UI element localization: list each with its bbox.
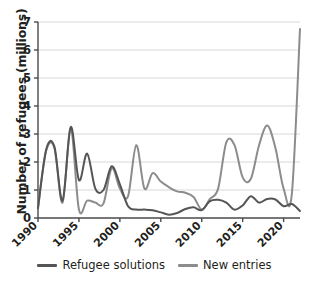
y-tick-labels: 01234567 [23, 15, 31, 225]
svg-text:7: 7 [23, 15, 31, 29]
svg-text:4: 4 [23, 99, 31, 113]
svg-text:3: 3 [23, 127, 31, 141]
svg-text:2015: 2015 [214, 219, 245, 250]
y-axis [34, 22, 38, 218]
svg-text:1995: 1995 [50, 219, 81, 250]
svg-text:1: 1 [23, 183, 31, 197]
data-series [38, 29, 300, 215]
svg-text:2020: 2020 [255, 219, 286, 250]
svg-text:2005: 2005 [132, 219, 163, 250]
refugee-line-chart: Number of refugees (millions) 01234567 1… [0, 0, 309, 283]
svg-text:6: 6 [23, 43, 31, 57]
legend-item-new-entries: New entries [178, 258, 272, 272]
svg-text:2010: 2010 [173, 219, 204, 250]
plot-area: 01234567 1990199520002005201020152020 [0, 0, 309, 283]
svg-text:5: 5 [23, 71, 31, 85]
svg-text:2: 2 [23, 155, 31, 169]
svg-text:2000: 2000 [91, 219, 122, 250]
legend-item-refugee-solutions: Refugee solutions [37, 258, 165, 272]
series-line-new-entries [38, 29, 300, 213]
legend-swatch-new-entries [178, 264, 198, 267]
legend-label-new-entries: New entries [203, 258, 272, 272]
legend-label-refugee-solutions: Refugee solutions [62, 258, 165, 272]
x-tick-labels: 1990199520002005201020152020 [9, 219, 286, 250]
x-axis [38, 218, 300, 222]
legend-swatch-refugee-solutions [37, 264, 57, 267]
chart-legend: Refugee solutions New entries [0, 258, 309, 272]
